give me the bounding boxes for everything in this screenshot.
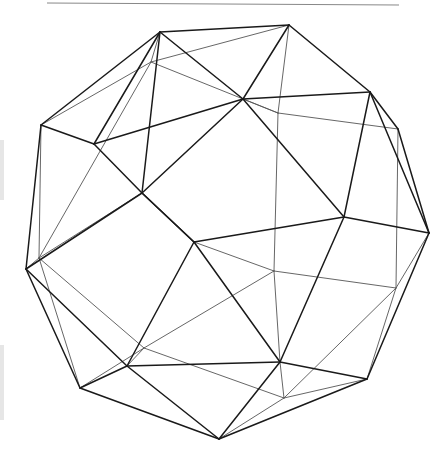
front-edge [344, 92, 370, 217]
back-edge [274, 271, 396, 288]
back-edge [284, 288, 396, 398]
back-edge [151, 25, 289, 62]
back-edge [144, 271, 274, 348]
polyhedron-figure [0, 0, 441, 462]
front-edge [127, 366, 219, 439]
back-edge [219, 398, 284, 439]
top-rule-line [47, 3, 399, 5]
front-edge [160, 32, 243, 99]
front-edge [41, 32, 160, 125]
front-edge [26, 269, 127, 366]
front-edge [127, 242, 194, 366]
front-edge [219, 379, 367, 439]
front-edge [219, 362, 280, 439]
front-edge [280, 362, 367, 379]
front-edge [243, 92, 370, 99]
front-edge [94, 144, 142, 193]
front-edge [80, 388, 219, 439]
front-edge [370, 92, 398, 129]
front-edge [142, 32, 160, 193]
back-edge [39, 258, 144, 348]
front-edge [370, 92, 429, 233]
back-edge [39, 258, 80, 388]
front-edge [41, 125, 94, 144]
back-edge [144, 348, 284, 398]
back-edge [194, 242, 274, 271]
back-edge [80, 348, 144, 388]
front-edge [160, 25, 289, 32]
front-edge [367, 233, 429, 379]
front-edge [280, 217, 344, 362]
back-edge [280, 362, 284, 398]
back-edge [396, 233, 429, 288]
back-edge [278, 25, 289, 113]
front-edge [344, 217, 429, 233]
visible-front-edges [26, 25, 429, 439]
back-edge [41, 62, 151, 125]
front-edge [127, 362, 280, 366]
front-edge [194, 217, 344, 242]
front-edge [142, 193, 194, 242]
front-edge [194, 242, 280, 362]
front-edge [289, 25, 370, 92]
back-edge [274, 271, 280, 362]
front-edge [243, 25, 289, 99]
front-edge [243, 99, 344, 217]
front-edge [398, 129, 429, 233]
front-edge [80, 366, 127, 388]
front-edge [142, 99, 243, 193]
back-edge [39, 62, 151, 258]
back-edge [396, 129, 398, 288]
front-edge [26, 193, 142, 269]
front-edge [26, 269, 80, 388]
